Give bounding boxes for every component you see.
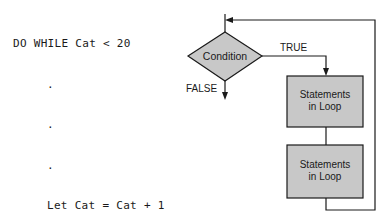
false-label: FALSE [186, 83, 217, 94]
true-branch-arrow [262, 56, 326, 72]
box-1-line-2: in Loop [309, 101, 342, 112]
box-2-line-2: in Loop [309, 171, 342, 182]
flowchart: Condition TRUE FALSE Statements in Loop … [0, 0, 384, 219]
decision-label: Condition [203, 50, 248, 62]
box-2-line-1: Statements [300, 159, 351, 170]
do-while-loop-diagram: DO WHILE Cat < 20 . . . Let Cat = Cat + … [0, 0, 384, 219]
box-1-line-1: Statements [300, 89, 351, 100]
true-label: TRUE [280, 42, 308, 53]
